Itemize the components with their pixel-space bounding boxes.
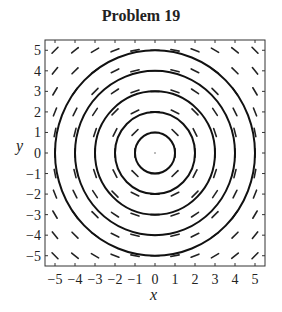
slope-segment: [171, 213, 179, 216]
slope-segment: [171, 90, 179, 93]
slope-segment: [111, 69, 119, 73]
slope-segment: [92, 88, 98, 94]
plot-area: −5−4−3−2−1012345−5−4−3−2−1012345: [0, 0, 282, 312]
slope-segment: [233, 108, 237, 116]
slope-segment: [92, 212, 98, 218]
slope-segment: [111, 254, 119, 257]
y-tick-label: −2: [26, 187, 41, 202]
slope-segment: [213, 108, 218, 115]
slope-segment: [252, 253, 258, 259]
slope-segment: [111, 49, 119, 52]
slope-segment: [211, 48, 218, 52]
slope-segment: [94, 128, 97, 136]
slope-segment: [74, 169, 76, 177]
x-tick-label: −3: [88, 272, 103, 287]
slope-segment: [232, 68, 238, 74]
x-tick-label: −1: [128, 272, 143, 287]
x-tick-label: 4: [232, 272, 239, 287]
slope-segment: [212, 212, 218, 218]
slope-segment: [253, 88, 257, 95]
slope-segment: [253, 108, 256, 116]
y-tick-label: −3: [26, 208, 41, 223]
slope-segment: [113, 129, 117, 137]
slope-segment: [192, 89, 199, 94]
slope-segment: [171, 110, 179, 114]
slope-segment: [113, 170, 117, 178]
slope-segment: [73, 108, 77, 116]
slope-segment: [252, 47, 258, 53]
slope-segment: [171, 234, 179, 236]
slope-segment: [72, 253, 79, 258]
slope-segment: [252, 68, 257, 75]
slope-segment: [193, 170, 197, 178]
x-tick-label: −4: [68, 272, 83, 287]
slope-segment: [211, 254, 218, 258]
slope-segment: [131, 213, 139, 216]
slope-segment: [93, 191, 98, 198]
slope-segment: [172, 171, 178, 177]
y-tick-label: 1: [34, 125, 41, 140]
slope-segment: [52, 253, 58, 259]
y-tick-label: 3: [34, 84, 41, 99]
x-tick-label: −5: [48, 272, 63, 287]
x-tick-label: −2: [108, 272, 123, 287]
slope-segment: [191, 69, 199, 73]
slope-segment: [131, 90, 139, 93]
y-tick-label: 0: [34, 146, 41, 161]
slope-segment: [212, 88, 218, 94]
x-tick-label: 3: [212, 272, 219, 287]
slope-segment: [131, 70, 139, 72]
slope-segment: [191, 49, 199, 52]
y-tick-label: −4: [26, 228, 41, 243]
slope-segment: [191, 233, 199, 237]
slope-segment: [253, 190, 256, 198]
slope-segment: [132, 171, 138, 177]
slope-segment: [171, 70, 179, 72]
slope-segment: [52, 47, 58, 53]
slope-segment: [72, 48, 79, 53]
slope-segment: [253, 211, 257, 218]
slope-segment: [131, 192, 139, 196]
x-tick-label: 5: [252, 272, 259, 287]
slope-segment: [232, 232, 238, 238]
x-tick-label: 2: [192, 272, 199, 287]
slope-segment: [53, 88, 57, 95]
slope-segment: [53, 211, 57, 218]
x-tick-label: 0: [152, 272, 159, 287]
slope-segment: [234, 169, 236, 177]
slope-segment: [191, 254, 199, 257]
slope-segment: [52, 232, 57, 239]
slope-segment: [214, 128, 217, 136]
slope-segment: [112, 212, 119, 217]
y-tick-label: 5: [34, 43, 41, 58]
slope-segment: [233, 190, 237, 198]
center-dot: [154, 152, 155, 153]
x-tick-label: 1: [172, 272, 179, 287]
slope-segment: [234, 128, 236, 136]
slope-segment: [73, 190, 77, 198]
slope-segment: [91, 254, 98, 258]
y-tick-label: 4: [34, 64, 41, 79]
slope-segment: [53, 108, 56, 116]
slope-segment: [111, 233, 119, 237]
slope-segment: [232, 48, 239, 53]
y-tick-label: −1: [26, 167, 41, 182]
slope-segment: [72, 68, 78, 74]
slope-segment: [172, 129, 178, 135]
slope-segment: [132, 129, 138, 135]
slope-segment: [171, 192, 179, 196]
slope-segment: [94, 170, 97, 178]
slope-segment: [214, 170, 217, 178]
slope-segment: [112, 89, 119, 94]
slope-segment: [193, 129, 197, 137]
slope-segment: [213, 191, 218, 198]
slope-segment: [192, 212, 199, 217]
y-tick-label: 2: [34, 105, 41, 120]
slope-segment: [52, 68, 57, 75]
slope-segment: [93, 108, 98, 115]
slope-segment: [72, 232, 78, 238]
slope-segment: [252, 232, 257, 239]
y-tick-label: −5: [26, 249, 41, 264]
slope-segment: [131, 234, 139, 236]
slope-segment: [131, 110, 139, 114]
